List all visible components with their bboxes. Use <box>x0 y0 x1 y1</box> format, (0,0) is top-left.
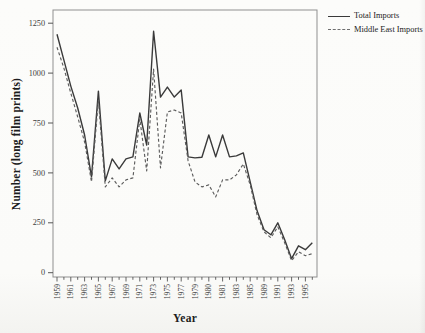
dashed-line-swatch-icon <box>328 29 350 30</box>
solid-line-swatch-icon <box>328 16 350 17</box>
x-tick-label: 1985 <box>246 284 255 299</box>
x-tick-label: 1963 <box>80 284 89 299</box>
y-tick-label: 250 <box>33 218 45 227</box>
x-tick-label: 1967 <box>108 284 117 299</box>
y-tick-label: 0 <box>41 268 45 277</box>
x-tick-label: 1989 <box>260 284 269 299</box>
x-tick-label: 1975 <box>163 284 172 299</box>
y-axis-title: Number (long film prints) <box>10 64 26 224</box>
chart-figure: 0250500750100012501959196119631965196719… <box>0 0 425 333</box>
y-tick-label: 1000 <box>29 69 45 78</box>
x-tick-label: 1995 <box>301 284 310 299</box>
x-tick-label: 1983 <box>232 284 241 299</box>
x-tick-label: 1981 <box>218 284 227 299</box>
x-tick-label: 1993 <box>287 284 296 299</box>
x-tick-label: 1977 <box>177 284 186 299</box>
x-tick-label: 1973 <box>149 284 158 299</box>
y-tick-label: 750 <box>33 119 45 128</box>
legend-item-total-imports: Total Imports <box>328 10 423 23</box>
x-tick-label: 1971 <box>135 284 144 299</box>
x-tick-label: 1961 <box>66 284 75 299</box>
x-tick-label: 1969 <box>122 284 131 299</box>
plot-frame <box>53 10 317 277</box>
legend-label: Middle East Imports <box>354 24 423 37</box>
x-tick-label: 1965 <box>94 284 103 299</box>
x-tick-label: 1979 <box>191 284 200 299</box>
legend-item-middle-east-imports: Middle East Imports <box>328 24 423 37</box>
y-tick-label: 1250 <box>29 19 45 28</box>
x-axis-title: Year <box>53 312 317 324</box>
x-tick-label: 1959 <box>53 284 62 299</box>
scan-shading <box>419 0 425 333</box>
legend-label: Total Imports <box>354 10 399 23</box>
x-tick-label: 1991 <box>273 284 282 299</box>
legend: Total Imports Middle East Imports <box>328 10 423 37</box>
x-tick-label: 1980 <box>204 284 213 299</box>
y-tick-label: 500 <box>33 169 45 178</box>
series-total-imports-line <box>57 31 312 259</box>
chart-plot: 0250500750100012501959196119631965196719… <box>0 0 425 333</box>
